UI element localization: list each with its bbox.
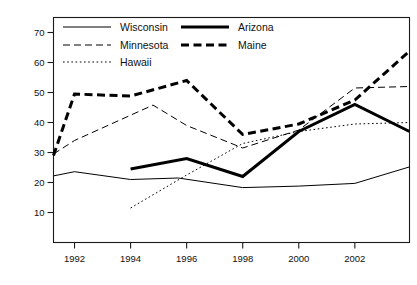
legend-label-minnesota: Minnesota — [120, 39, 169, 51]
x-tick-label: 1994 — [120, 253, 141, 264]
y-tick-label: 70 — [34, 27, 45, 38]
x-tick-label: 1992 — [64, 253, 85, 264]
chart-canvas: 10203040506070 199219941996199820002002 … — [0, 0, 417, 285]
legend-label-maine: Maine — [238, 39, 267, 51]
x-tick-label: 1998 — [232, 253, 253, 264]
y-tick-label: 10 — [34, 207, 45, 218]
y-tick-label: 40 — [34, 117, 45, 128]
legend-label-wisconsin: Wisconsin — [120, 21, 168, 33]
x-tick-label: 1996 — [176, 253, 197, 264]
x-tick-label: 2002 — [344, 253, 365, 264]
y-tick-label: 20 — [34, 177, 45, 188]
y-tick-label: 30 — [34, 147, 45, 158]
y-tick-label: 50 — [34, 87, 45, 98]
y-tick-label: 60 — [34, 57, 45, 68]
x-tick-label: 2000 — [288, 253, 309, 264]
legend-label-hawaii: Hawaii — [120, 56, 152, 68]
legend-label-arizona: Arizona — [238, 21, 274, 33]
line-chart: 10203040506070 199219941996199820002002 … — [0, 0, 417, 285]
